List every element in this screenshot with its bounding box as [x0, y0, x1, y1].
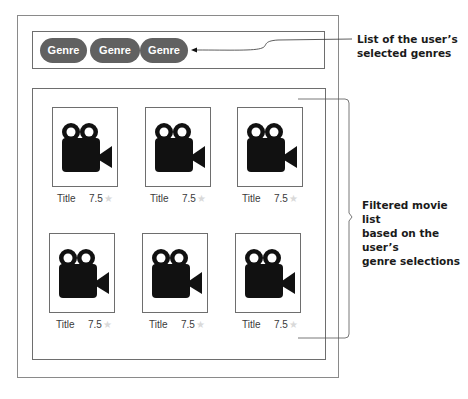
movie-rating: 7.5 [274, 193, 288, 204]
genre-chip-3[interactable]: Genre 3 [140, 38, 188, 63]
movie-meta-5: Title7.5★ [149, 319, 205, 330]
movie-rating: 7.5 [274, 319, 288, 330]
movie-meta-1: Title7.5★ [57, 193, 113, 204]
movie-camera-icon [152, 120, 207, 175]
genre-chip-1[interactable]: Genre 1 [40, 38, 87, 63]
movie-title[interactable]: Title [242, 319, 274, 330]
star-icon[interactable]: ★ [104, 193, 113, 204]
star-icon[interactable]: ★ [103, 319, 112, 330]
movies-callout-label: Filtered movie list based on the user’s … [362, 198, 468, 268]
movie-card-5[interactable] [142, 233, 208, 313]
movie-title[interactable]: Title [57, 193, 89, 204]
movie-card-2[interactable] [145, 107, 211, 187]
movie-card-4[interactable] [49, 233, 115, 313]
movie-camera-icon [149, 246, 204, 301]
star-icon[interactable]: ★ [196, 319, 205, 330]
movie-rating: 7.5 [181, 319, 195, 330]
callout-line: Filtered movie list [362, 198, 468, 226]
star-icon[interactable]: ★ [289, 319, 298, 330]
movie-card-3[interactable] [237, 107, 303, 187]
callout-line: List of the user’s [357, 32, 458, 46]
movie-meta-4: Title7.5★ [56, 319, 112, 330]
movie-card-6[interactable] [235, 233, 301, 313]
star-icon[interactable]: ★ [197, 193, 206, 204]
movie-card-1[interactable] [52, 107, 118, 187]
movie-title[interactable]: Title [242, 193, 274, 204]
genres-callout-label: List of the user’s selected genres [357, 32, 458, 60]
movie-meta-2: Title7.5★ [150, 193, 206, 204]
callout-line: selected genres [357, 46, 458, 60]
movie-rating: 7.5 [182, 193, 196, 204]
movie-rating: 7.5 [88, 319, 102, 330]
genre-chip-2[interactable]: Genre 2 [90, 38, 140, 63]
movie-title[interactable]: Title [150, 193, 182, 204]
star-icon[interactable]: ★ [289, 193, 298, 204]
movie-camera-icon [244, 120, 299, 175]
callout-line: genre selections [362, 254, 468, 268]
movie-rating: 7.5 [89, 193, 103, 204]
movie-camera-icon [56, 246, 111, 301]
movie-title[interactable]: Title [56, 319, 88, 330]
movie-camera-icon [59, 120, 114, 175]
movie-title[interactable]: Title [149, 319, 181, 330]
movie-meta-6: Title7.5★ [242, 319, 298, 330]
selected-genres-bar: Genre 1 Genre 2 Genre 3 [32, 31, 325, 69]
movie-camera-icon [242, 246, 297, 301]
movie-meta-3: Title7.5★ [242, 193, 298, 204]
callout-line: based on the user’s [362, 226, 468, 254]
